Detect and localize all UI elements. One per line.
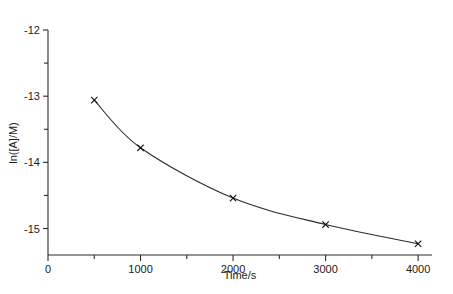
chart-figure: -12-13-14-15 01000200030004000 Time/s ln… (0, 0, 453, 294)
chart-background (0, 0, 453, 294)
x-tick-label: 0 (45, 263, 51, 275)
y-tick-label: -14 (24, 156, 40, 168)
y-axis-label: ln([A]/M) (7, 122, 19, 164)
x-axis-label: Time/s (224, 269, 257, 281)
x-tick-label: 4000 (406, 263, 430, 275)
y-tick-label: -12 (24, 24, 40, 36)
x-tick-label: 3000 (313, 263, 337, 275)
y-tick-label: -15 (24, 223, 40, 235)
chart-plot-area: -12-13-14-15 01000200030004000 Time/s ln… (0, 0, 453, 294)
y-tick-label: -13 (24, 90, 40, 102)
x-tick-label: 1000 (128, 263, 152, 275)
